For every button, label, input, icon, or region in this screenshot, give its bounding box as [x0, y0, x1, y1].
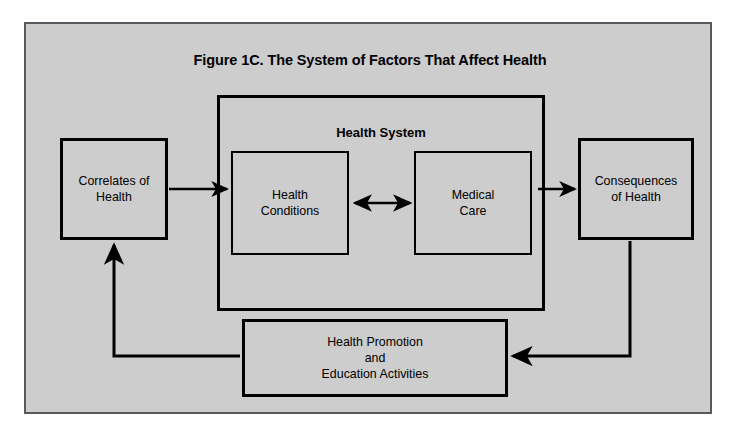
- node-correlates-of-health-label: Correlates of Health: [75, 173, 154, 205]
- node-medical-care-line-1: Medical: [452, 188, 495, 202]
- node-health-promotion-line-2: and: [365, 351, 386, 365]
- node-correlates-line-1: Correlates of: [79, 174, 150, 188]
- node-medical-care-label: Medical Care: [448, 187, 499, 219]
- node-correlates-line-2: Health: [96, 190, 132, 204]
- node-health-promotion-line-3: Education Activities: [322, 367, 429, 381]
- node-correlates-of-health[interactable]: Correlates of Health: [60, 138, 168, 240]
- health-system-label: Health System: [217, 125, 545, 140]
- node-health-conditions-line-1: Health: [272, 188, 308, 202]
- node-consequences-of-health[interactable]: Consequences of Health: [578, 138, 694, 240]
- node-consequences-of-health-label: Consequences of Health: [591, 173, 682, 205]
- figure-diagram: Figure 1C. The System of Factors That Af…: [0, 0, 736, 436]
- node-health-conditions-line-2: Conditions: [261, 204, 320, 218]
- node-consequences-line-1: Consequences: [595, 174, 678, 188]
- figure-frame: Figure 1C. The System of Factors That Af…: [24, 22, 712, 414]
- node-medical-care[interactable]: Medical Care: [414, 151, 532, 255]
- node-health-conditions[interactable]: Health Conditions: [231, 151, 349, 255]
- node-health-promotion-line-1: Health Promotion: [327, 335, 423, 349]
- figure-title: Figure 1C. The System of Factors That Af…: [26, 52, 714, 68]
- node-health-promotion-education[interactable]: Health Promotion and Education Activitie…: [242, 319, 508, 397]
- node-consequences-line-2: of Health: [611, 190, 661, 204]
- node-medical-care-line-2: Care: [460, 204, 487, 218]
- node-health-conditions-label: Health Conditions: [257, 187, 324, 219]
- node-health-promotion-education-label: Health Promotion and Education Activitie…: [318, 334, 433, 382]
